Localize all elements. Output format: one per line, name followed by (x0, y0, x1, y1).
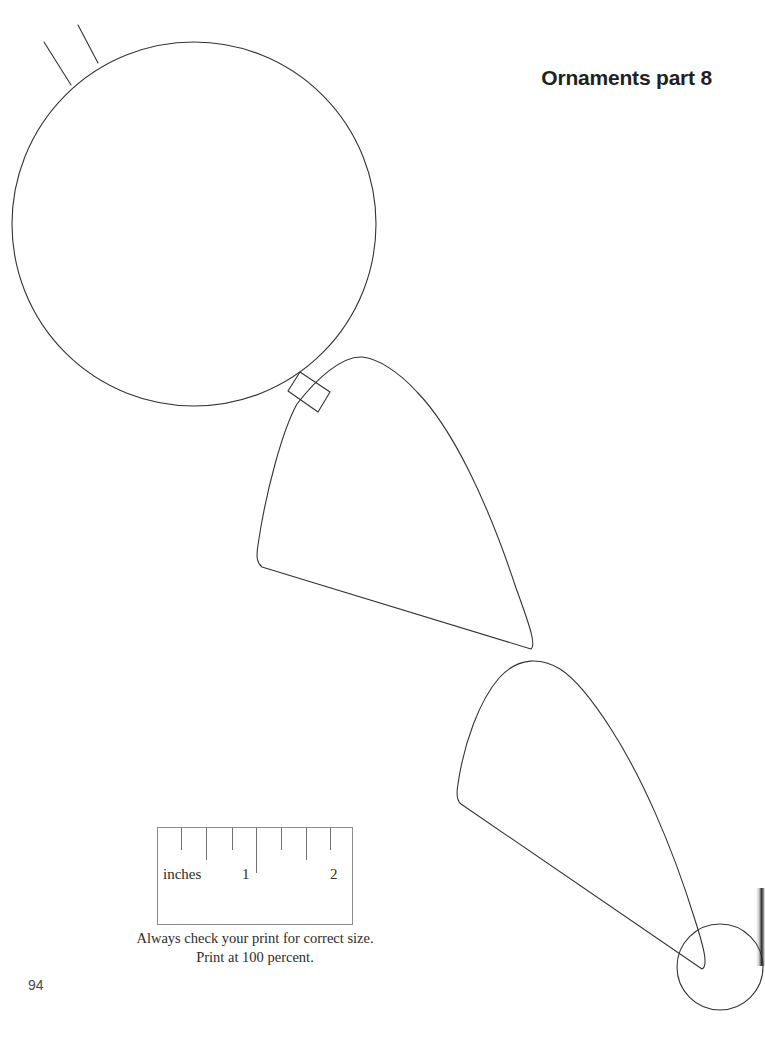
ruler-tick (330, 828, 331, 850)
small-circle-shape (677, 924, 763, 1010)
pattern-page: Ornaments part 8 94 inches 1 2 Always ch… (0, 0, 765, 1040)
page-number: 94 (28, 977, 44, 993)
ruler-tick (206, 828, 207, 860)
hanger-line-right-shape (78, 25, 98, 63)
ruler-unit-label: inches (163, 866, 201, 883)
ruler-mark-1: 1 (242, 866, 250, 883)
scan-gutter-shadow (756, 888, 765, 966)
pattern-artwork (0, 0, 765, 1040)
page-title: Ornaments part 8 (541, 66, 712, 90)
hanger-line-left-shape (44, 42, 71, 85)
ruler-mark-2: 2 (330, 866, 338, 883)
ruler-tick (232, 828, 233, 850)
ruler-caption: Always check your print for correct size… (136, 929, 373, 967)
ruler-box: inches 1 2 (157, 827, 353, 925)
ruler-caption-line-2: Print at 100 percent. (136, 948, 373, 967)
fan-panel-lower-shape (457, 661, 705, 969)
ruler-tick (181, 828, 182, 850)
ruler-caption-line-1: Always check your print for correct size… (136, 929, 373, 948)
ruler-tick (281, 828, 282, 850)
fan-panel-middle-shape (257, 357, 533, 649)
ruler-tick (256, 828, 257, 873)
ruler-tick (306, 828, 307, 860)
print-scale-ruler: inches 1 2 Always check your print for c… (157, 827, 353, 925)
connector-tab-shape (288, 372, 330, 412)
large-circle-shape (12, 42, 376, 406)
